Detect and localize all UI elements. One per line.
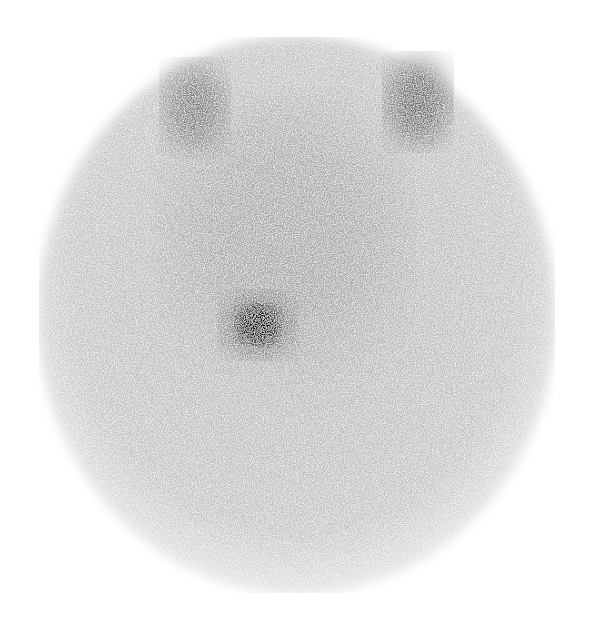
upper-right-uptake [388,60,448,144]
focal-hot-spot [238,307,278,343]
scan-canvas [0,0,594,619]
upper-left-uptake [165,66,225,150]
